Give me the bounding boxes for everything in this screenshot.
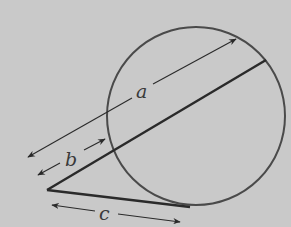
dimension-b: b [38,139,105,175]
dimension-c: c [52,202,180,224]
secant-line [47,60,266,190]
label-b: b [65,148,77,170]
dimension-b-arrow-left [38,163,60,175]
dimension-c-arrow-right [118,214,180,222]
secant-tangent-diagram: a b c [0,0,291,227]
circle [107,27,285,205]
label-a: a [136,80,147,102]
tangent-line [47,190,190,207]
dimension-b-arrow-right [84,139,105,150]
label-c: c [99,202,110,224]
dimension-a-arrow-right [153,39,236,84]
dimension-c-arrow-left [52,205,95,211]
